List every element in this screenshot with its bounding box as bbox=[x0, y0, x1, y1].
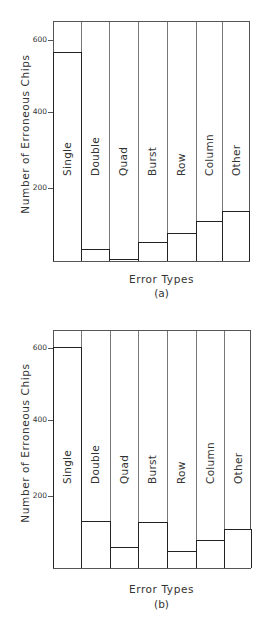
bar-label-single: Single bbox=[61, 450, 73, 484]
y-tick-label: 600 bbox=[23, 343, 47, 352]
bar-other bbox=[224, 529, 252, 568]
bar-label-burst: Burst bbox=[146, 455, 158, 484]
y-tick-label: 400 bbox=[23, 415, 47, 424]
plot-area: Single Double Quad Burst Row Column Othe… bbox=[53, 330, 251, 569]
bar-label-row: Row bbox=[175, 461, 187, 484]
panel-label: (b) bbox=[28, 598, 267, 610]
bar-burst bbox=[138, 522, 168, 568]
y-tick-label: 200 bbox=[23, 491, 47, 500]
bar-row bbox=[167, 551, 197, 568]
bar-label-quad: Quad bbox=[118, 455, 130, 484]
bar-label-double: Double bbox=[89, 445, 101, 484]
bar-double bbox=[81, 521, 111, 568]
column-divider bbox=[196, 331, 197, 568]
x-axis-label: Error Types bbox=[28, 583, 267, 595]
bar-label-column: Column bbox=[204, 442, 216, 484]
bar-label-other: Other bbox=[232, 453, 244, 484]
chart-b: Number of Erroneous Chips 600 400 200 Si… bbox=[0, 0, 267, 634]
bar-column bbox=[196, 540, 225, 568]
bar-quad bbox=[110, 547, 139, 568]
